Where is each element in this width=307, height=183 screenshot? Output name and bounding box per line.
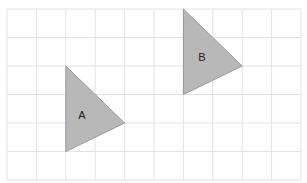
grid-diagram (0, 0, 307, 183)
triangle-label: B (198, 51, 205, 63)
triangle-label: A (78, 109, 85, 121)
